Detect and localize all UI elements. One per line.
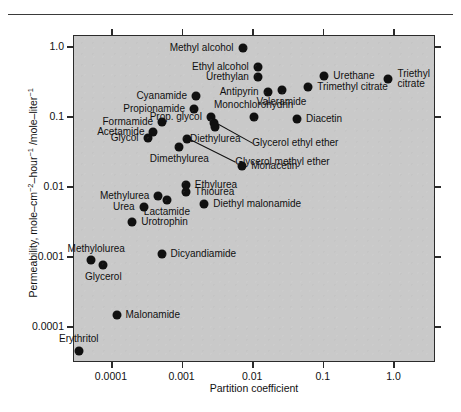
- y-tick-label-2: 0.01: [44, 180, 64, 192]
- plot-area: 0.00010.0010.010.11.00.00010.0010.010.11…: [73, 35, 435, 362]
- y-axis-title: Permeability, mole–cm−2–hour−1 /mole–lit…: [25, 43, 39, 343]
- x-tick-label-1: 0.001: [168, 370, 194, 382]
- data-point: [249, 113, 258, 122]
- data-point-label: Diethyl malonamide: [213, 199, 301, 210]
- data-point-label: Glycerol: [85, 271, 122, 282]
- data-point: [211, 123, 220, 132]
- x-tick-top-1: [182, 29, 184, 36]
- x-tick-top-0: [111, 29, 113, 36]
- data-point-label: Erythritol: [59, 334, 98, 345]
- data-point-label: Trimethyl citrate: [317, 81, 388, 92]
- y-tick-right-4: [434, 46, 441, 48]
- data-point-label: Urea: [113, 202, 135, 213]
- data-point: [175, 143, 184, 152]
- y-tick-right-3: [434, 116, 441, 118]
- data-point: [139, 202, 148, 211]
- x-tick-label-0: 0.0001: [95, 370, 127, 382]
- data-point-label: Monochlorohydrin: [214, 100, 294, 111]
- figure-container: 0.00010.0010.010.11.00.00010.0010.010.11…: [0, 0, 461, 412]
- data-point: [238, 43, 247, 52]
- y-tick-label-4: 1.0: [49, 40, 64, 52]
- x-tick-label-3: 0.1: [316, 370, 331, 382]
- data-point-label: Triethyl citrate: [397, 68, 435, 89]
- y-tick-right-0: [434, 326, 441, 328]
- data-point: [200, 200, 209, 209]
- data-point: [162, 196, 171, 205]
- x-tick-3: [323, 361, 325, 368]
- data-point: [253, 63, 262, 72]
- data-point-label: Malonamide: [126, 310, 180, 321]
- data-point-label: Urotrophin: [141, 217, 188, 228]
- y-tick-label-1: 0.001: [38, 250, 64, 262]
- data-point-label: Antipyrin: [220, 86, 259, 97]
- x-tick-top-4: [393, 29, 395, 36]
- x-axis-title: Partition coefficient: [73, 382, 435, 394]
- x-tick-4: [393, 361, 395, 368]
- data-point-label: Prop. glycol: [150, 112, 202, 123]
- data-point-label: Glycerol ethyl ether: [252, 137, 338, 148]
- data-point: [238, 161, 247, 170]
- data-point: [143, 133, 152, 142]
- y-tick-label-3: 0.1: [49, 110, 64, 122]
- data-point: [74, 347, 83, 356]
- x-tick-0: [111, 361, 113, 368]
- data-point-label: Methylolurea: [68, 244, 125, 255]
- x-tick-label-4: 1.0: [386, 370, 401, 382]
- x-tick-2: [252, 361, 254, 368]
- y-tick-3: [67, 116, 74, 118]
- data-point-label: Thiourea: [195, 187, 234, 198]
- data-point: [181, 188, 190, 197]
- y-tick-right-1: [434, 256, 441, 258]
- data-point: [277, 86, 286, 95]
- x-tick-1: [182, 361, 184, 368]
- y-axis-title-text: Permeability, mole–cm−2–hour−1 /mole–lit…: [27, 88, 39, 297]
- data-point: [263, 87, 272, 96]
- x-tick-label-2: 0.01: [242, 370, 262, 382]
- data-point: [112, 311, 121, 320]
- data-point-label: Dimethylurea: [150, 154, 209, 165]
- y-tick-right-2: [434, 186, 441, 188]
- data-point: [128, 217, 137, 226]
- data-point: [99, 260, 108, 269]
- data-point-label: Glycol: [111, 133, 139, 144]
- data-point: [191, 91, 200, 100]
- top-rule: [8, 14, 453, 15]
- data-point-label: Monacetin: [251, 161, 297, 172]
- data-point: [304, 82, 313, 91]
- y-tick-4: [67, 46, 74, 48]
- x-tick-top-2: [252, 29, 254, 36]
- y-tick-2: [67, 186, 74, 188]
- data-point-label: Urethylan: [206, 72, 249, 83]
- data-point-label: Methyl alcohol: [170, 43, 234, 54]
- data-point-label: Diacetin: [306, 114, 342, 125]
- data-point: [292, 114, 301, 123]
- x-tick-top-3: [323, 29, 325, 36]
- data-point: [320, 71, 329, 80]
- y-tick-1: [67, 256, 74, 258]
- data-point-label: Cyanamide: [136, 91, 187, 102]
- data-point: [253, 73, 262, 82]
- y-tick-0: [67, 326, 74, 328]
- data-point-label: Urethane: [333, 70, 374, 81]
- data-point: [86, 256, 95, 265]
- data-point: [157, 250, 166, 259]
- data-point-label: Dicyandiamide: [171, 249, 237, 260]
